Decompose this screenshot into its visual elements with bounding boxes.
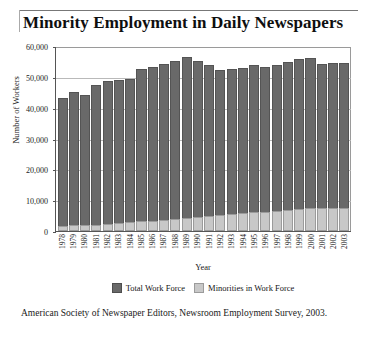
legend-item: Total Work Force [112,283,185,293]
bar-minorities-work-force [272,211,282,231]
y-tick-label: 20,000 [8,166,48,175]
x-axis-tick-labels: 1978197919801981198219831984198519861987… [55,234,351,260]
legend-label: Minorities in Work Force [208,283,294,293]
bar-total-work-force [328,63,338,231]
legend-item: Minorities in Work Force [194,283,294,293]
legend-label: Total Work Force [126,283,185,293]
bar-total-work-force [294,59,304,231]
bar-total-work-force [170,61,180,231]
bar-column [91,47,101,231]
x-tick-label: 1979 [68,234,78,260]
bar-minorities-work-force [170,219,180,231]
x-tick-label: 1984 [124,234,134,260]
bar-minorities-work-force [103,224,113,231]
chart-figure: Minority Employment in Daily Newspapers … [0,0,371,339]
bar-total-work-force [215,70,225,231]
bar-total-work-force [114,80,124,231]
bar-minorities-work-force [114,223,124,231]
bar-total-work-force [80,95,90,231]
bar-total-work-force [204,65,214,232]
bar-minorities-work-force [227,214,237,231]
bar-column [283,47,293,231]
bar-column [215,47,225,231]
bar-minorities-work-force [80,225,90,231]
chart-legend: Total Work ForceMinorities in Work Force [55,281,351,295]
y-tick-label: 30,000 [8,135,48,144]
bar-minorities-work-force [204,216,214,231]
bar-column [294,47,304,231]
bar-total-work-force [159,64,169,231]
bar-minorities-work-force [283,210,293,231]
bar-column [260,47,270,231]
x-tick-label: 1996 [260,234,270,260]
x-tick-label: 1994 [238,234,248,260]
x-tick-label: 1980 [79,234,89,260]
bar-column [148,47,158,231]
x-tick-label: 1983 [113,234,123,260]
bar-total-work-force [339,63,349,231]
x-tick-label: 1997 [272,234,282,260]
bar-column [58,47,68,231]
bar-minorities-work-force [193,217,203,231]
x-tick-label: 1990 [192,234,202,260]
x-axis-title: Year [55,262,351,272]
bar-minorities-work-force [58,226,68,231]
y-tick-label: 10,000 [8,197,48,206]
bar-column [249,47,259,231]
bar-column [317,47,327,231]
x-tick-label: 1986 [147,234,157,260]
legend-swatch [112,283,122,293]
x-tick-label: 2003 [339,234,349,260]
y-tick-label: 50,000 [8,73,48,82]
bar-column [136,47,146,231]
bar-minorities-work-force [305,208,315,231]
x-tick-label: 2002 [328,234,338,260]
plot-area [55,47,351,232]
bar-column [305,47,315,231]
plot-area-wrapper: Number of Workers 010,00020,00030,00040,… [0,0,371,275]
bar-series-group [56,47,351,231]
bar-minorities-work-force [249,212,259,231]
bar-column [170,47,180,231]
bar-minorities-work-force [215,215,225,231]
bar-minorities-work-force [148,221,158,231]
bar-column [204,47,214,231]
bar-column [328,47,338,231]
bar-column [114,47,124,231]
bar-minorities-work-force [136,221,146,231]
bar-column [69,47,79,231]
bar-total-work-force [272,65,282,232]
bar-total-work-force [249,65,259,232]
x-tick-label: 2000 [305,234,315,260]
x-tick-label: 1991 [204,234,214,260]
y-tick-label: 40,000 [8,104,48,113]
bar-total-work-force [58,98,68,231]
x-tick-label: 1999 [294,234,304,260]
bar-column [238,47,248,231]
bar-minorities-work-force [317,208,327,231]
bar-minorities-work-force [238,213,248,231]
bar-minorities-work-force [339,208,349,231]
bar-column [159,47,169,231]
bar-total-work-force [136,69,146,231]
bar-total-work-force [125,79,135,231]
bar-column [182,47,192,231]
x-tick-label: 1988 [170,234,180,260]
bar-total-work-force [283,62,293,231]
bar-column [193,47,203,231]
x-tick-label: 1987 [158,234,168,260]
source-caption: American Society of Newspaper Editors, N… [21,307,356,320]
bar-minorities-work-force [159,220,169,231]
bar-minorities-work-force [260,212,270,231]
x-tick-label: 1998 [283,234,293,260]
bar-column [103,47,113,231]
y-tick-label: 0 [8,228,48,237]
y-tick-label: 60,000 [8,43,48,52]
x-tick-label: 1985 [136,234,146,260]
x-tick-label: 1995 [249,234,259,260]
bar-total-work-force [182,57,192,231]
bar-total-work-force [260,67,270,231]
bar-column [125,47,135,231]
x-tick-label: 1981 [91,234,101,260]
bar-total-work-force [305,58,315,231]
